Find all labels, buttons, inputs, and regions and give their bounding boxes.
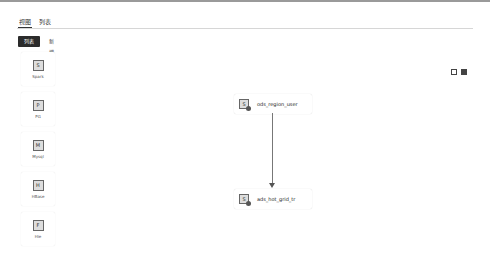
dag-canvas[interactable] <box>17 16 473 246</box>
view-tabs: 视图 列表 <box>18 15 52 29</box>
hbase-icon: H <box>33 180 44 191</box>
spark-node-icon: S <box>239 194 249 204</box>
hive-icon: F <box>33 220 44 231</box>
palette-item-mysql[interactable]: M Mysql <box>21 132 55 166</box>
status-dot-icon <box>246 201 251 206</box>
list-button[interactable]: 列表 <box>18 36 40 47</box>
mysql-icon: M <box>33 140 44 151</box>
pg-icon: P <box>33 100 44 111</box>
dag-edge[interactable] <box>272 113 273 184</box>
palette-label: Spark <box>32 74 44 79</box>
node-glyph: S <box>242 196 245 202</box>
window-top-border <box>0 0 490 2</box>
palette-item-spark[interactable]: S Spark <box>21 52 55 86</box>
palette-label: Hie <box>35 234 42 239</box>
palette-item-hive[interactable]: F Hie <box>21 212 55 246</box>
node-label: ads_hot_grid_tr <box>257 196 295 202</box>
dag-node-target[interactable]: S ads_hot_grid_tr <box>234 189 312 209</box>
palette-label: PG <box>35 114 41 119</box>
tab-view[interactable]: 视图 <box>18 17 32 28</box>
status-dot-icon <box>246 106 251 111</box>
dag-node-source[interactable]: S ods_region_user <box>234 94 312 114</box>
node-glyph: S <box>242 101 245 107</box>
canvas-toolbar <box>446 66 472 78</box>
palette-item-pg[interactable]: P PG <box>21 92 55 126</box>
tab-list[interactable]: 列表 <box>38 17 52 27</box>
arrowhead-icon <box>269 183 275 188</box>
fullscreen-icon[interactable] <box>461 69 467 75</box>
node-label: ods_region_user <box>257 101 298 107</box>
mode-toggle: 列表 新增 <box>18 36 59 47</box>
palette-label: HBase <box>32 194 45 199</box>
tabs-divider <box>17 28 473 29</box>
spark-icon: S <box>33 60 44 71</box>
source-palette: S Spark P PG M Mysql H HBase F Hie <box>21 52 55 252</box>
palette-item-hbase[interactable]: H HBase <box>21 172 55 206</box>
spark-node-icon: S <box>239 99 249 109</box>
add-button[interactable]: 新增 <box>43 36 59 47</box>
palette-label: Mysql <box>32 154 44 159</box>
fit-view-icon[interactable] <box>451 69 457 75</box>
